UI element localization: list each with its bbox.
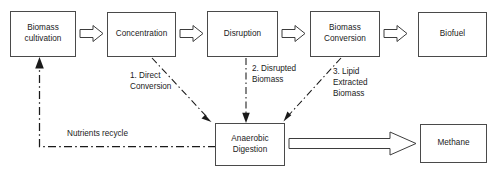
diagram-canvas: Biomass cultivation Concentration Disrup… [0, 0, 495, 173]
node-biomass-conversion[interactable]: Biomass Conversion [310, 11, 380, 57]
node-methane[interactable]: Methane [420, 124, 487, 163]
node-biomass-conversion-label: Biomass Conversion [324, 23, 366, 45]
edge-label-lipid-extracted-biomass: 3. Lipid Extracted Biomass [333, 66, 389, 99]
edge-label-nutrients-recycle: Nutrients recycle [67, 128, 177, 139]
edge-label-direct-conversion: 1. Direct Conversion [130, 70, 190, 92]
node-biomass-cultivation-label: Biomass cultivation [25, 23, 62, 45]
block-arrow-conversion-to-biofuel [384, 26, 407, 42]
node-biofuel-label: Biofuel [440, 29, 465, 40]
arrowhead-nutrients-recycle [35, 57, 44, 69]
node-concentration[interactable]: Concentration [107, 12, 176, 57]
block-arrow-digestion-to-methane [289, 132, 416, 155]
node-concentration-label: Concentration [116, 29, 168, 40]
node-biofuel[interactable]: Biofuel [418, 12, 487, 57]
block-arrow-cultivation-to-concentration [80, 26, 103, 42]
arrowhead-disrupted-biomass [242, 113, 250, 123]
edge-label-disrupted-biomass: 2. Disrupted Biomass [252, 63, 314, 85]
node-disruption-label: Disruption [224, 29, 261, 40]
block-arrow-concentration-to-disruption [180, 26, 203, 42]
node-disruption[interactable]: Disruption [207, 11, 278, 57]
block-arrow-disruption-to-conversion [282, 26, 305, 42]
node-anaerobic-digestion[interactable]: Anaerobic Digestion [215, 123, 285, 166]
node-methane-label: Methane [437, 138, 469, 149]
node-biomass-cultivation[interactable]: Biomass cultivation [10, 11, 76, 57]
node-anaerobic-digestion-label: Anaerobic Digestion [231, 134, 268, 156]
